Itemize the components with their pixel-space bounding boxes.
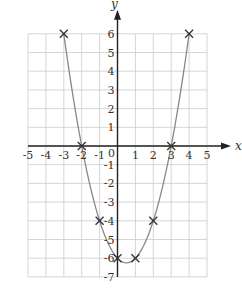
x-tick-label: 1 [132, 149, 139, 162]
x-tick-label: -4 [41, 149, 52, 162]
y-tick-label: -6 [104, 252, 115, 265]
y-axis-label: y [110, 0, 118, 11]
x-tick-label: 4 [186, 149, 193, 162]
x-tick-label: -5 [23, 149, 34, 162]
y-tick-label: 4 [108, 65, 115, 78]
x-tick-label: 2 [150, 149, 157, 162]
quadratic-graph: -5-4-3-2-1012345-7-6-5-4-3-2-1123456 x y [0, 0, 242, 303]
axes [28, 10, 231, 277]
y-tick-label: 5 [108, 47, 115, 60]
y-tick-label: -5 [104, 234, 115, 247]
x-axis-label: x [235, 139, 242, 153]
tick-labels: -5-4-3-2-1012345-7-6-5-4-3-2-1123456 [23, 28, 211, 284]
x-tick-label: 3 [168, 149, 175, 162]
y-tick-label: 6 [108, 28, 115, 41]
y-tick-label: 3 [108, 84, 115, 97]
x-tick-label: -2 [76, 149, 87, 162]
y-tick-label: -4 [104, 215, 115, 228]
x-axis-arrow-icon [221, 143, 231, 150]
x-tick-label: -3 [58, 149, 69, 162]
y-tick-label: -3 [104, 196, 115, 209]
y-axis-arrow-icon [114, 10, 121, 20]
y-tick-label: -1 [104, 159, 115, 172]
y-tick-label: -7 [104, 271, 115, 284]
y-tick-label: 2 [108, 103, 115, 116]
x-tick-label: 5 [204, 149, 211, 162]
y-tick-label: -2 [104, 177, 115, 190]
y-tick-label: 1 [108, 121, 115, 134]
